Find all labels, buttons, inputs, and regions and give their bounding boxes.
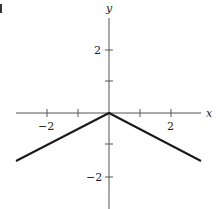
y-tick-label-neg2: −2 [86, 171, 102, 184]
y-axis-label: y [105, 2, 113, 15]
chart: −2 2 2 −2 x y [0, 0, 216, 209]
x-tick-label-pos2: 2 [167, 120, 174, 133]
x-tick-label-neg2: −2 [38, 120, 54, 133]
x-axis-label: x [206, 107, 213, 120]
y-tick-label-pos2: 2 [94, 44, 101, 57]
